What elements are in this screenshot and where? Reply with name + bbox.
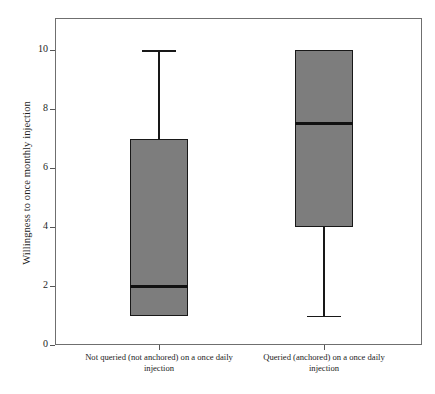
y-tick-label: 0 (10, 339, 48, 349)
median-line (295, 122, 353, 125)
median-line (130, 285, 188, 288)
x-axis-label-line1: Not queried (not anchored) on a once dai… (64, 352, 254, 363)
x-axis-label-0: Not queried (not anchored) on a once dai… (64, 352, 254, 373)
lower-whisker-cap (307, 316, 341, 318)
x-axis-label-line2: injection (229, 363, 419, 374)
y-tick-label: 10 (10, 44, 48, 54)
x-axis-label-1: Queried (anchored) on a once dailyinject… (229, 352, 419, 373)
plot-area (55, 18, 422, 345)
box-iqr (130, 139, 188, 316)
x-axis-label-line2: injection (64, 363, 254, 374)
x-axis-label-line1: Queried (anchored) on a once daily (229, 352, 419, 363)
box-iqr (295, 50, 353, 227)
y-axis-title: Willingness to once monthly injection (18, 18, 36, 348)
y-tick-mark (50, 345, 55, 346)
box-plot-figure: Willingness to once monthly injection 02… (0, 0, 435, 394)
y-tick-label: 6 (10, 162, 48, 172)
x-tick-mark (159, 345, 160, 350)
upper-whisker-line (158, 50, 160, 139)
upper-whisker-cap (142, 50, 176, 52)
x-tick-mark (324, 345, 325, 350)
y-tick-label: 8 (10, 103, 48, 113)
y-tick-label: 4 (10, 221, 48, 231)
lower-whisker-line (323, 227, 325, 316)
y-tick-label: 2 (10, 280, 48, 290)
